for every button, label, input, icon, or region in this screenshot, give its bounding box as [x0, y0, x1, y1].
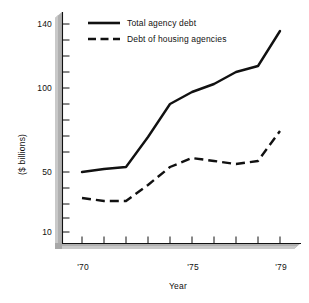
x-tick-label-70: '70 — [68, 262, 98, 272]
x-axis-title: Year — [148, 281, 208, 291]
y-axis-title: ($ billions) — [17, 134, 27, 175]
legend-label-total-agency-debt: Total agency debt — [127, 18, 196, 28]
series-line-total-agency-debt — [82, 31, 280, 172]
x-axis-shadow-slab-highlight — [55, 246, 297, 249]
x-tick-label-75: '75 — [178, 262, 208, 272]
y-tick-label-100: 100 — [22, 83, 52, 93]
x-axis-ticks — [82, 237, 280, 244]
legend-label-debt-of-housing-agencies: Debt of housing agencies — [127, 34, 227, 44]
x-tick-label-79: '79 — [266, 262, 296, 272]
y-tick-label-140: 140 — [22, 19, 52, 29]
series-line-debt-of-housing-agencies — [82, 131, 280, 201]
y-tick-label-10: 10 — [22, 227, 52, 237]
chart-plot-area — [0, 0, 309, 303]
y-axis-ticks — [63, 24, 70, 232]
chart-figure: Total agency debt Debt of housing agenci… — [0, 0, 309, 303]
axis-corner-shadow — [55, 243, 62, 249]
y-axis-shadow-slab-highlight — [55, 15, 58, 249]
